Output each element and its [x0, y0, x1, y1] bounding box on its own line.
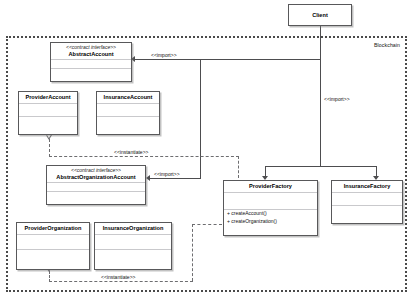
class-name-client: Client	[312, 12, 328, 19]
class-header-insurance-factory: InsuranceFactory	[332, 181, 402, 193]
class-name-provider-organization: ProviderOrganization	[19, 225, 87, 232]
connector-instantiate-organization-stub	[49, 271, 50, 282]
class-header-client: Client	[289, 5, 351, 25]
class-compartment-operations	[95, 250, 171, 269]
connector-import-abstract-organization-arrow	[146, 175, 150, 181]
connector-import-abstract-account-line	[135, 59, 321, 60]
class-compartment-attributes	[332, 193, 402, 206]
connector-import-abstract-organization-line	[150, 178, 201, 179]
class-name-abstract-organization-account: AbstractOrganizationAccount	[49, 174, 143, 181]
class-box-insurance-organization[interactable]: InsuranceOrganization	[94, 222, 172, 270]
connector-client-trunk	[320, 26, 321, 166]
class-box-provider-account[interactable]: ProviderAccount	[18, 91, 78, 135]
class-compartment-operations	[19, 117, 77, 134]
class-name-provider-account: ProviderAccount	[21, 94, 75, 101]
class-compartment-attributes	[47, 183, 145, 192]
class-box-provider-organization[interactable]: ProviderOrganization	[16, 222, 90, 270]
class-header-provider-account: ProviderAccount	[19, 92, 77, 104]
class-box-abstract-account[interactable]: <<contract interface>> AbstractAccount	[50, 42, 132, 82]
connector-instantiate-organization-feed	[192, 224, 222, 225]
class-header-provider-factory: ProviderFactory	[224, 181, 317, 193]
connector-import-abstract-organization-riser	[200, 59, 201, 178]
class-compartment-operations	[332, 206, 402, 223]
class-box-insurance-account[interactable]: InsuranceAccount	[96, 91, 160, 135]
class-compartment-operations	[97, 117, 159, 134]
connector-factory-fork-bar	[265, 166, 376, 167]
connector-instantiate-account-line	[49, 156, 239, 157]
connector-instantiate-organization-line	[49, 281, 193, 282]
connector-instantiate-organization-riser	[192, 224, 193, 281]
class-compartment-attributes	[95, 235, 171, 250]
class-compartment-operations	[47, 192, 145, 204]
class-header-provider-organization: ProviderOrganization	[17, 223, 89, 235]
class-compartment-attributes	[19, 104, 77, 117]
connector-instantiate-account-arrow	[47, 135, 52, 140]
class-name-insurance-factory: InsuranceFactory	[334, 183, 400, 190]
connector-label-import-abstract-account: <<import>>	[150, 52, 178, 58]
connector-label-import-abstract-organization-account: <<import>>	[153, 171, 181, 177]
connector-instantiate-account-stub	[49, 139, 50, 157]
class-box-abstract-organization-account[interactable]: <<contract interface>> AbstractOrganizat…	[46, 165, 146, 205]
class-compartment-operations	[51, 69, 131, 81]
class-member-create-account: + createAccount()	[224, 210, 317, 218]
class-name-insurance-account: InsuranceAccount	[99, 94, 157, 101]
class-box-insurance-factory[interactable]: InsuranceFactory	[331, 180, 403, 224]
class-name-provider-factory: ProviderFactory	[226, 183, 315, 190]
connector-instantiate-account-riser	[238, 156, 239, 178]
class-compartment-operations	[17, 250, 89, 269]
class-member-create-organization: + createOrganization()	[224, 218, 317, 226]
class-compartment-attributes	[51, 60, 131, 69]
class-header-insurance-account: InsuranceAccount	[97, 92, 159, 104]
class-name-abstract-account: AbstractAccount	[53, 51, 129, 58]
class-header-abstract-organization-account: <<contract interface>> AbstractOrganizat…	[47, 166, 145, 183]
class-compartment-attributes	[224, 193, 317, 210]
uml-class-diagram: Blockchain <<import>> <<import>> <<impor…	[0, 0, 413, 297]
class-header-abstract-account: <<contract interface>> AbstractAccount	[51, 43, 131, 60]
blockchain-boundary-label: Blockchain	[374, 42, 400, 48]
class-name-insurance-organization: InsuranceOrganization	[97, 225, 169, 232]
class-compartment-attributes	[17, 235, 89, 250]
connector-label-instantiate-provider-account: <<instantiate>>	[113, 149, 149, 155]
connector-label-import-client-factories: <<import>>	[323, 96, 351, 102]
class-box-client[interactable]: Client	[288, 4, 352, 26]
class-header-insurance-organization: InsuranceOrganization	[95, 223, 171, 235]
connector-label-instantiate-provider-organization: <<instantiate>>	[100, 274, 136, 280]
class-compartment-attributes	[97, 104, 159, 117]
class-box-provider-factory[interactable]: ProviderFactory + createAccount() + crea…	[223, 180, 318, 236]
class-compartment-operations: + createAccount() + createOrganization()	[224, 210, 317, 235]
